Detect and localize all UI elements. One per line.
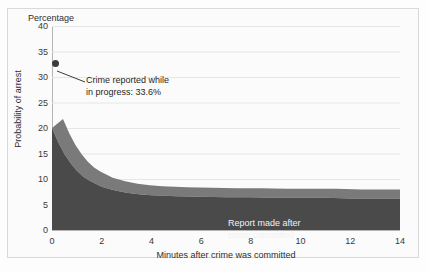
y-axis-title: Probability of arrest [13,49,23,169]
x-axis-line [52,230,400,231]
x-tick-label: 14 [387,236,413,246]
y-tick-label: 10 [24,175,48,184]
y-tick-label: 25 [24,99,48,108]
y-tick-label: 5 [24,201,48,210]
x-tick-label: 2 [89,236,115,246]
x-axis-title: Minutes after crime was committed [52,250,400,260]
y-tick-label: 30 [24,73,48,82]
x-tick-label: 6 [188,236,214,246]
y-tick-label: 20 [24,124,48,133]
plot-area: Report made after crime committed [52,26,400,230]
series-inline-label: Report made after crime committed [228,217,301,241]
y-axis-tick-labels: 0510152025303540 [22,26,48,230]
annotation-text: Crime reported while in progress: 33.6% [86,74,169,98]
area-top-surface [52,119,400,198]
x-tick-label: 4 [138,236,164,246]
chart-figure: Percentage 0510152025303540 02468101214 … [0,0,428,272]
y-tick-label: 0 [24,226,48,235]
y-tick-label: 15 [24,150,48,159]
annotation-leader-line [57,71,85,82]
area-series-shape [52,26,400,230]
x-tick-label: 12 [337,236,363,246]
x-tick-label: 0 [39,236,65,246]
y-tick-label: 35 [24,48,48,57]
y-tick-label: 40 [24,22,48,31]
x-axis-tick-labels: 02468101214 [52,236,400,248]
